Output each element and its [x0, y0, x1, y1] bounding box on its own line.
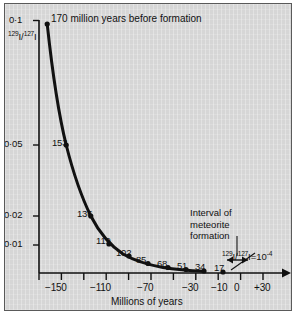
y-tick-label-0-1: 0·1: [9, 15, 22, 25]
ratio-annotation: 129I/127I=10-4: [222, 250, 272, 262]
x-tick-label-neg10: −10: [211, 283, 227, 294]
decay-chart-canvas: [5, 4, 292, 311]
y-tick-label-0-01: 0·01: [4, 239, 22, 249]
interval-annotation-line-1: Interval of: [190, 207, 232, 219]
x-tick-label-neg30: −30: [182, 283, 198, 294]
ratio-exponent: -4: [267, 250, 272, 257]
x-tick-label-pos30: +30: [254, 283, 270, 294]
figure-plate: 129I/127I 0·1 0·05 0·02 0·01 170 million…: [4, 3, 292, 311]
y-axis-title-sup-127: 127: [24, 30, 34, 37]
x-tick-label-neg150: −150: [45, 283, 67, 294]
top-annotation: 170 million years before formation: [51, 14, 202, 25]
point-label-34: 34: [195, 262, 205, 272]
interval-annotation: Interval of meteorite formation: [190, 207, 232, 242]
point-label-102: 102: [116, 248, 131, 258]
y-tick-label-0-02: 0·02: [4, 210, 22, 220]
y-axis-title-sup-129: 129: [8, 30, 18, 37]
point-label-136: 136: [77, 209, 92, 219]
data-point-85: [145, 261, 150, 266]
x-tick-group: [39, 273, 263, 280]
x-tick-label-neg70: −70: [137, 283, 153, 294]
figure-page: 129I/127I 0·1 0·05 0·02 0·01 170 million…: [0, 0, 296, 315]
point-label-68: 68: [157, 259, 167, 269]
point-label-119: 119: [96, 236, 111, 246]
y-tick-label-0-05: 0·05: [4, 139, 22, 149]
interval-annotation-line-3: formation: [190, 230, 232, 242]
ratio-equals: =10: [251, 251, 267, 262]
point-label-17: 17: [214, 263, 224, 273]
x-axis-title: Millions of years: [111, 297, 183, 308]
point-label-85: 85: [136, 255, 146, 265]
data-point-170: [45, 21, 50, 26]
interval-annotation-line-2: meteorite: [190, 219, 232, 231]
point-label-153: 153: [52, 138, 67, 148]
y-axis-title-iso-2: I: [34, 31, 37, 42]
y-axis-title: 129I/127I: [8, 30, 37, 42]
decay-curve: [47, 24, 204, 271]
x-tick-label-neg110: −110: [90, 283, 111, 294]
ratio-sup-127: 127: [238, 250, 248, 257]
point-label-51: 51: [177, 261, 187, 271]
x-axis-arrowhead: [282, 269, 291, 278]
x-tick-label-zero: 0: [234, 283, 239, 294]
ratio-sup-129: 129: [222, 250, 232, 257]
